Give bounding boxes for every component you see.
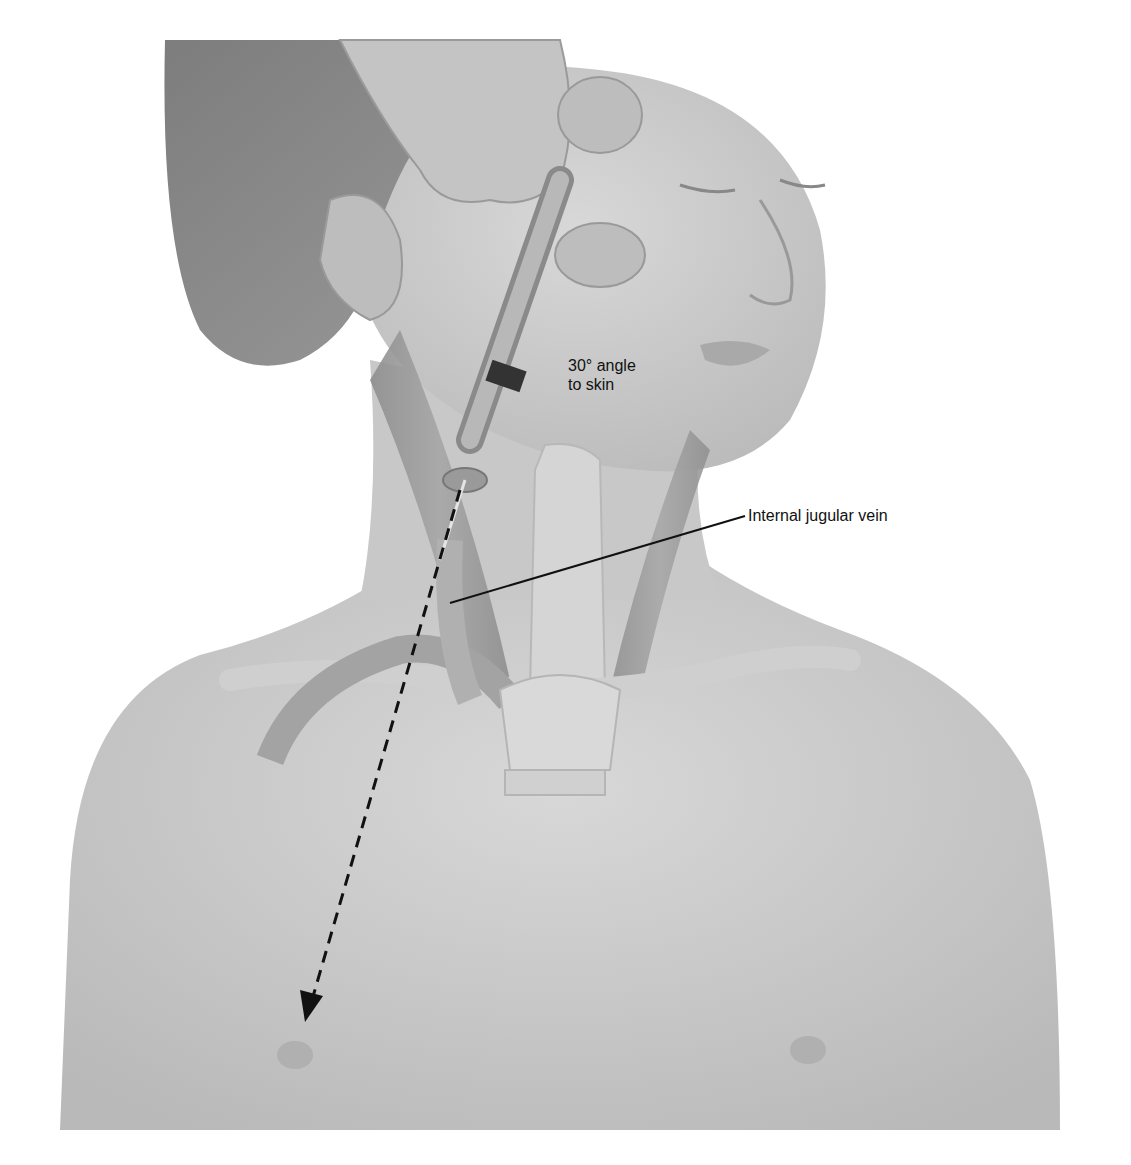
manubrium [500,675,620,770]
angle-label: 30° angle to skin [568,356,636,394]
illustration: 30° angle to skin Internal jugular vein [0,0,1131,1165]
angle-label-line2: to skin [568,375,636,394]
angle-label-line1: 30° angle [568,356,636,375]
right-nipple [790,1036,826,1064]
left-nipple [277,1041,313,1069]
vessel-label: Internal jugular vein [748,506,888,525]
trachea [530,444,605,690]
anatomy-drawing [0,0,1131,1165]
